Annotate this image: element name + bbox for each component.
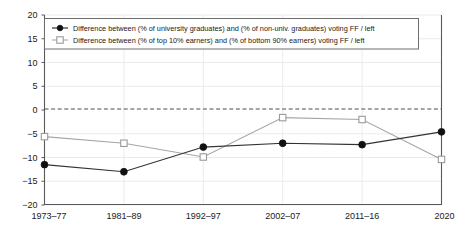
- top10-earners-point: [121, 140, 127, 146]
- x-tick-label: 2002–07: [265, 211, 300, 221]
- y-tick-label: −20: [22, 200, 37, 210]
- y-tick-label: 5: [32, 81, 37, 91]
- y-tick-label: 20: [27, 10, 37, 20]
- x-tick-label: 2011–16: [345, 211, 379, 221]
- y-tick-label: −15: [22, 176, 37, 186]
- university-graduates-point: [279, 140, 286, 147]
- legend: Difference between (% of university grad…: [45, 19, 419, 50]
- y-tick-label: −5: [27, 129, 37, 139]
- university-graduates-point: [359, 141, 366, 148]
- university-graduates-point: [438, 128, 445, 135]
- legend-label-series-a: Difference between (% of university grad…: [73, 24, 375, 33]
- x-tick-label: 1973–77: [32, 211, 67, 221]
- university-graduates-point: [200, 144, 207, 151]
- top10-earners-point: [41, 133, 47, 139]
- y-tick-label: −10: [22, 153, 37, 163]
- y-tick-label: 10: [27, 58, 37, 68]
- university-graduates-point: [121, 168, 128, 175]
- filled-circle-icon: [57, 25, 63, 31]
- x-tick-label: 1981–89: [106, 211, 141, 221]
- top10-earners-point: [359, 116, 365, 122]
- chart-container: 20151050−5−10−15−20 1973–771981–891992–9…: [0, 0, 473, 233]
- legend-entry-university-graduates: Difference between (% of university grad…: [52, 24, 375, 33]
- y-tick-label: 0: [32, 105, 37, 115]
- x-tick-label: 1992–97: [186, 211, 221, 221]
- top10-earners-point: [280, 114, 286, 120]
- top10-earners-point: [438, 156, 444, 162]
- legend-entry-top10-earners: Difference between (% of top 10% earners…: [52, 36, 364, 45]
- y-tick-label: 15: [27, 34, 37, 44]
- x-tick-label: 2020: [434, 211, 454, 221]
- line-chart: 20151050−5−10−15−20 1973–771981–891992–9…: [0, 0, 473, 233]
- university-graduates-point: [41, 161, 48, 168]
- legend-label-series-b: Difference between (% of top 10% earners…: [73, 36, 364, 45]
- top10-earners-point: [200, 154, 206, 160]
- open-square-icon: [57, 37, 63, 43]
